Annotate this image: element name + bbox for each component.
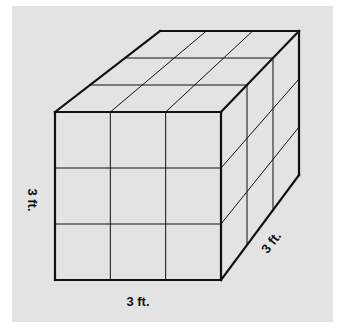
width-dimension-label: 3 ft. [126,294,149,309]
height-dimension-label: 3 ft. [25,188,40,211]
front-face [55,112,221,280]
cube-diagram: 3 ft. 3 ft. 3 ft. [0,0,346,336]
